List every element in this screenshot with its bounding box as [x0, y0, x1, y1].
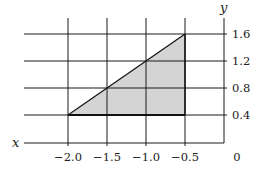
x-axis-label: x — [12, 135, 20, 150]
y-tick-label: 1.2 — [232, 54, 250, 68]
y-tick-label: 0.8 — [232, 81, 250, 95]
y-axis-label: y — [219, 0, 228, 15]
x-tick-label: −0.5 — [171, 150, 199, 164]
x-tick-label: −2.0 — [54, 150, 82, 164]
diagram-canvas: x y 1.6 1.2 0.8 0.4 −2.0 −1.5 −1.0 −0.5 … — [0, 0, 267, 175]
x-tick-label: −1.0 — [132, 150, 160, 164]
y-tick-label: 0.4 — [232, 108, 250, 122]
x-tick-label: 0 — [233, 150, 240, 164]
x-tick-label: −1.5 — [93, 150, 121, 164]
y-tick-label: 1.6 — [232, 27, 250, 41]
